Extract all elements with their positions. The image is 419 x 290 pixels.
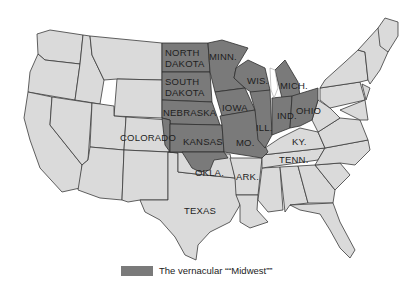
state-wyoming: [114, 79, 162, 118]
state-montana: [90, 36, 162, 80]
state-maine: [378, 18, 398, 52]
label-arkansas: ARK.: [236, 172, 259, 183]
label-north-dakota: NORTH DAKOTA: [165, 48, 205, 69]
label-kentucky: KY.: [292, 137, 307, 148]
state-florida: [290, 203, 355, 258]
label-missouri: MO.: [236, 138, 255, 149]
label-oklahoma: OKLA.: [195, 168, 224, 179]
label-tennessee: TENN.: [279, 155, 309, 166]
label-indiana: IND.: [277, 111, 297, 122]
legend-label: The vernacular ““Midwest””: [159, 265, 273, 276]
label-south-dakota: SOUTH DAKOTA: [165, 77, 205, 98]
label-illinois: ILL.: [256, 123, 273, 134]
label-iowa: IOWA: [222, 103, 248, 114]
state-mississippi: [258, 167, 283, 212]
state-new-york: [320, 50, 368, 88]
label-ohio: OHIO: [296, 106, 321, 117]
state-new-mexico: [122, 150, 168, 202]
state-michigan: [275, 60, 300, 98]
label-texas: TEXAS: [184, 206, 216, 217]
label-nebraska: NEBRASKA: [163, 108, 216, 119]
label-colorado: COLORADO: [120, 133, 176, 144]
label-michigan: MICH.: [280, 81, 308, 92]
legend: The vernacular ““Midwest””: [121, 265, 273, 276]
legend-swatch: [121, 266, 153, 276]
label-kansas: KANSAS: [183, 137, 223, 148]
label-wisconsin: WIS.: [247, 76, 268, 87]
label-minnesota: MINN.: [209, 52, 237, 63]
